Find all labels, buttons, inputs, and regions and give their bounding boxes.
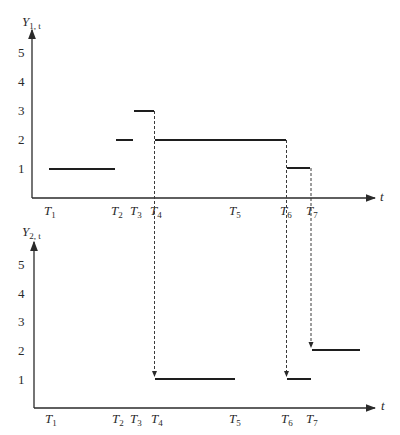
x1-tick-T1: T1 <box>44 203 56 220</box>
x2-tick-T7: T7 <box>306 411 318 428</box>
y2-tick-2: 2 <box>18 343 25 358</box>
x1-axis-label: t <box>380 189 384 204</box>
y2-tick-3: 3 <box>18 314 25 329</box>
dashed-connectors <box>155 111 312 376</box>
y2-tick-1: 1 <box>18 372 25 387</box>
x1-tick-T2: T2 <box>111 203 123 220</box>
x2-tick-T6: T6 <box>281 411 293 428</box>
y2-axis-label: Y2, t <box>22 224 41 241</box>
y1-tick-3: 3 <box>18 103 25 118</box>
step-charts: Y1, t t 1 2 3 4 5 T1 T2 T3 T4 T5 T6 T7 Y… <box>0 0 400 435</box>
x2-tick-T3: T3 <box>130 411 142 428</box>
x2-tick-T1: T1 <box>45 411 57 428</box>
x1-tick-T4: T4 <box>150 203 162 220</box>
y1-axis-label: Y1, t <box>22 14 41 31</box>
chart-y2: Y2, t t 1 2 3 4 5 T1 T2 T3 T4 T5 T6 T7 <box>18 224 385 428</box>
x2-axis-label: t <box>381 398 385 413</box>
x2-tick-T4: T4 <box>151 411 163 428</box>
x1-tick-T3: T3 <box>130 203 142 220</box>
y1-tick-5: 5 <box>18 45 25 60</box>
x2-tick-T5: T5 <box>229 411 241 428</box>
y2-tick-4: 4 <box>18 286 25 301</box>
x1-tick-T5: T5 <box>229 203 241 220</box>
chart-y1: Y1, t t 1 2 3 4 5 T1 T2 T3 T4 T5 T6 T7 <box>18 14 384 220</box>
y1-tick-4: 4 <box>18 74 25 89</box>
y1-tick-2: 2 <box>18 132 25 147</box>
y2-tick-5: 5 <box>18 257 25 272</box>
y1-tick-1: 1 <box>18 161 25 176</box>
x2-tick-T2: T2 <box>112 411 124 428</box>
x1-tick-T7: T7 <box>306 203 318 220</box>
